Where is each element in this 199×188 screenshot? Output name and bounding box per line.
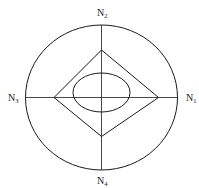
label-n2: N2 [97, 8, 107, 20]
diagram-canvas [0, 0, 199, 188]
label-n2-sub: 2 [104, 12, 107, 19]
label-n1-sub: 1 [193, 97, 196, 104]
node-diagram: N2 N3 N1 N4 [0, 0, 199, 188]
label-n4: N4 [97, 176, 107, 188]
label-n3-sub: 3 [15, 97, 18, 104]
diamond [54, 50, 159, 137]
label-n4-sub: 4 [104, 180, 107, 187]
label-n3: N3 [8, 93, 18, 105]
label-n1: N1 [186, 93, 196, 105]
